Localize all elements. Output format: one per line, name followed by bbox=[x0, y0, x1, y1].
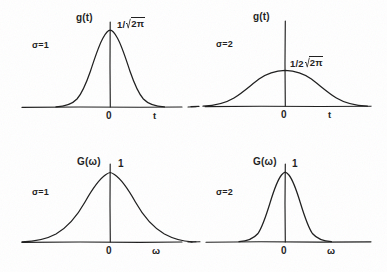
peak-label-lead: 1/2 bbox=[290, 58, 304, 69]
origin-tick-label-top-left: 0 bbox=[106, 110, 112, 121]
x-axis-variable-bottom-right: ω bbox=[327, 245, 335, 256]
peak-label-radicand: 2π bbox=[131, 17, 145, 29]
gaussian-curve bbox=[22, 173, 192, 242]
peak-value-label-bottom-right: 1 bbox=[292, 158, 298, 169]
panel-bottom-right: G(ω) σ=2 1 0 ω bbox=[191, 142, 387, 272]
function-label-top-right: g(t) bbox=[253, 11, 270, 22]
origin-tick-label-top-right: 0 bbox=[281, 109, 287, 120]
plot-top-right bbox=[191, 0, 387, 130]
panel-bottom-left: G(ω) σ=1 1 0 ω bbox=[0, 142, 196, 272]
function-label-bottom-left: G(ω) bbox=[77, 156, 101, 167]
x-axis-variable-top-left: t bbox=[153, 110, 156, 121]
panel-top-right: g(t) σ=2 1/2√2π 0 t bbox=[191, 0, 387, 130]
sigma-label-bottom-right: σ=2 bbox=[216, 187, 233, 197]
figure-root: g(t) σ=1 1/√2π 0 t g(t) σ=2 1/2√2π 0 t bbox=[0, 0, 387, 272]
function-label-top-left: g(t) bbox=[76, 12, 93, 23]
peak-value-label-top-left: 1/√2π bbox=[117, 18, 145, 30]
panel-top-left: g(t) σ=1 1/√2π 0 t bbox=[0, 0, 196, 130]
peak-label-lead: 1/ bbox=[117, 19, 125, 30]
sigma-label-top-right: σ=2 bbox=[216, 39, 233, 49]
peak-label-radicand: 2π bbox=[309, 56, 323, 68]
function-label-bottom-right: G(ω) bbox=[253, 156, 277, 167]
origin-tick-label-bottom-left: 0 bbox=[106, 245, 112, 256]
sigma-label-top-left: σ=1 bbox=[32, 40, 49, 50]
origin-tick-label-bottom-right: 0 bbox=[281, 245, 287, 256]
plot-top-left bbox=[0, 0, 196, 130]
x-axis-variable-top-right: t bbox=[328, 109, 331, 120]
peak-value-label-top-right: 1/2√2π bbox=[290, 57, 323, 69]
peak-value-label-bottom-left: 1 bbox=[118, 158, 124, 169]
plot-bottom-right bbox=[191, 142, 387, 272]
sigma-label-bottom-left: σ=1 bbox=[32, 187, 49, 197]
x-axis-variable-bottom-left: ω bbox=[152, 245, 160, 256]
